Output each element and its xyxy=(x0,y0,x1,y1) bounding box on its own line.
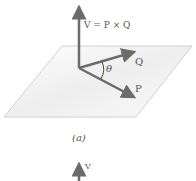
equation-label: V = P × Q xyxy=(84,21,130,30)
plane xyxy=(4,46,192,117)
vector-q-label: Q xyxy=(135,57,143,67)
second-vector-v-label: V xyxy=(85,163,91,171)
vector-p-label: P xyxy=(135,84,142,94)
angle-label: θ xyxy=(106,64,112,74)
figure-caption: (a) xyxy=(72,133,86,143)
